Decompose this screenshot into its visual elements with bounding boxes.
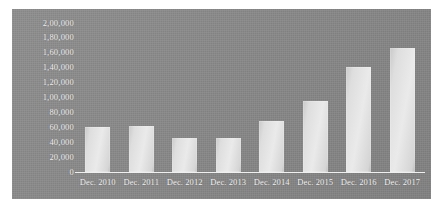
chart-plot-background: 2,00,0001,80,0001,60,0001,40,0001,20,000… bbox=[12, 9, 431, 199]
y-axis-tick-label: 0 bbox=[16, 168, 74, 177]
bar[interactable] bbox=[216, 138, 241, 172]
x-axis-tick-label: Dec. 2011 bbox=[120, 176, 164, 189]
bar-slot bbox=[76, 23, 120, 172]
x-axis-tick-label: Dec. 2012 bbox=[163, 176, 207, 189]
y-axis-tick-label: 1,60,000 bbox=[16, 48, 74, 57]
y-axis-tick-label: 1,00,000 bbox=[16, 93, 74, 102]
y-axis-tick-label: 2,00,000 bbox=[16, 19, 74, 28]
x-axis-tick-label: Dec. 2016 bbox=[337, 176, 381, 189]
y-axis-tick-label: 20,000 bbox=[16, 153, 74, 162]
y-axis: 2,00,0001,80,0001,60,0001,40,0001,20,000… bbox=[16, 9, 74, 199]
bar[interactable] bbox=[172, 138, 197, 172]
x-axis-tick-label: Dec. 2013 bbox=[207, 176, 251, 189]
bar-slot bbox=[163, 23, 207, 172]
x-axis-line bbox=[75, 172, 425, 173]
bar[interactable] bbox=[390, 48, 415, 172]
bar[interactable] bbox=[85, 127, 110, 172]
y-axis-tick-label: 1,40,000 bbox=[16, 63, 74, 72]
bar-series bbox=[76, 23, 424, 172]
y-axis-tick-label: 1,20,000 bbox=[16, 78, 74, 87]
x-axis-tick-label: Dec. 2014 bbox=[250, 176, 294, 189]
bar[interactable] bbox=[129, 126, 154, 172]
bar[interactable] bbox=[303, 101, 328, 172]
bar-slot bbox=[381, 23, 425, 172]
bar[interactable] bbox=[259, 121, 284, 172]
bar-chart-figure: 2,00,0001,80,0001,60,0001,40,0001,20,000… bbox=[0, 0, 443, 208]
x-axis-tick-label: Dec. 2017 bbox=[381, 176, 425, 189]
y-axis-tick-label: 60,000 bbox=[16, 123, 74, 132]
plot-area: 2,00,0001,80,0001,60,0001,40,0001,20,000… bbox=[12, 9, 431, 199]
y-axis-tick-label: 40,000 bbox=[16, 138, 74, 147]
bar-slot bbox=[294, 23, 338, 172]
bar-slot bbox=[207, 23, 251, 172]
x-axis-tick-label: Dec. 2010 bbox=[76, 176, 120, 189]
y-axis-tick-label: 80,000 bbox=[16, 108, 74, 117]
y-axis-tick-label: 1,80,000 bbox=[16, 33, 74, 42]
bar-slot bbox=[250, 23, 294, 172]
bar-slot bbox=[120, 23, 164, 172]
bar[interactable] bbox=[346, 67, 371, 172]
bar-slot bbox=[337, 23, 381, 172]
x-axis: Dec. 2010Dec. 2011Dec. 2012Dec. 2013Dec.… bbox=[76, 176, 424, 192]
x-axis-tick-label: Dec. 2015 bbox=[294, 176, 338, 189]
